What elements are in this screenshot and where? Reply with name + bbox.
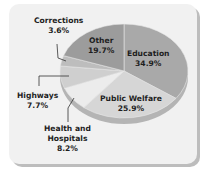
public-welfare-label: Public Welfare 25.9%: [100, 94, 162, 114]
public-welfare-pct: 25.9%: [100, 104, 162, 114]
other-label: Other 19.7%: [88, 36, 114, 56]
education-pct: 34.9%: [127, 59, 170, 69]
corrections-label: Corrections 3.6%: [34, 16, 83, 36]
highways-pct: 7.7%: [17, 101, 58, 111]
health-name-line2: Hospitals: [44, 134, 91, 144]
education-name: Education: [127, 49, 170, 59]
other-name: Other: [88, 36, 114, 46]
health-label: Health and Hospitals 8.2%: [44, 124, 91, 154]
health-pct: 8.2%: [44, 144, 91, 154]
pie-chart: [0, 0, 208, 173]
highways-name: Highways: [17, 91, 58, 101]
corrections-pct: 3.6%: [34, 26, 83, 36]
public-welfare-name: Public Welfare: [100, 94, 162, 104]
education-label: Education 34.9%: [127, 49, 170, 69]
highways-label: Highways 7.7%: [17, 91, 58, 111]
corrections-name: Corrections: [34, 16, 83, 26]
health-name-line1: Health and: [44, 124, 91, 134]
other-pct: 19.7%: [88, 46, 114, 56]
